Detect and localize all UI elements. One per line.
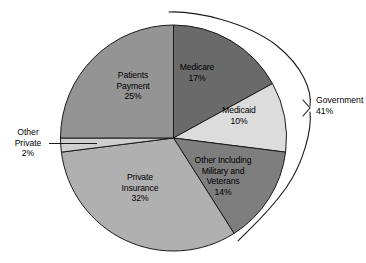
bracket-label-government: Government 41% (316, 95, 366, 116)
government-bracket-tip (303, 100, 310, 116)
pie-chart-figure: Medicare 17% Medicaid 10% Other Includin… (0, 0, 366, 263)
callout-label-other-private-percent: 2% (6, 148, 50, 159)
slice-label-medicaid-name: Medicaid (200, 105, 278, 116)
slice-label-private-insurance-name-1: Private (101, 172, 179, 183)
slice-label-patients-payment-percent: 25% (94, 91, 172, 102)
slice-label-other-military-name-1: Other Including (181, 155, 265, 166)
slice-label-other-military-name-2: Military and (181, 166, 265, 177)
callout-label-other-private: Other Private 2% (6, 127, 50, 159)
slice-label-medicaid-percent: 10% (200, 116, 278, 127)
bracket-label-government-name: Government (316, 95, 366, 106)
slice-label-patients-payment-name-2: Payment (94, 81, 172, 92)
slice-label-medicaid: Medicaid 10% (200, 105, 278, 126)
callout-label-other-private-name-1: Other (6, 127, 50, 138)
bracket-label-government-percent: 41% (316, 106, 366, 117)
pie-chart-graphic (0, 0, 366, 263)
slice-label-patients-payment: Patients Payment 25% (94, 70, 172, 102)
slice-label-private-insurance: Private Insurance 32% (101, 172, 179, 204)
slice-label-other-military: Other Including Military and Veterans 14… (181, 155, 265, 197)
slice-label-private-insurance-name-2: Insurance (101, 183, 179, 194)
slice-label-other-military-name-3: Veterans (181, 176, 265, 187)
slice-label-private-insurance-percent: 32% (101, 193, 179, 204)
slice-label-other-military-percent: 14% (181, 187, 265, 198)
callout-label-other-private-name-2: Private (6, 138, 50, 149)
slice-label-patients-payment-name-1: Patients (94, 70, 172, 81)
